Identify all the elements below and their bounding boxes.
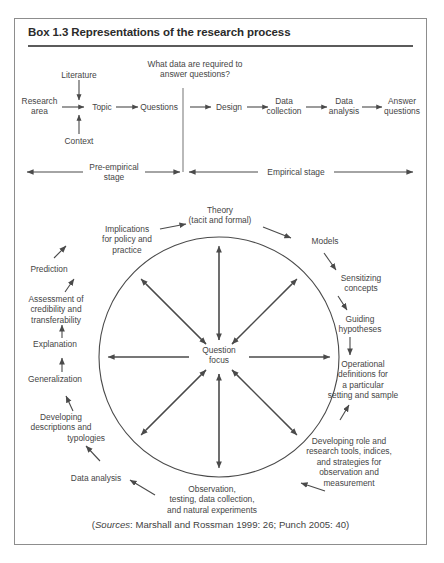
label-generalization: Generalization	[17, 374, 93, 384]
label-assessment: Assessment of credibility and transferab…	[17, 294, 95, 325]
node-data-analysis: Data analysis	[321, 96, 367, 117]
node-research-area: Research area	[16, 96, 63, 117]
label-models: Models	[298, 236, 352, 246]
label-sensitizing: Sensitizing concepts	[327, 273, 395, 294]
node-data-collection: Data collection	[258, 96, 310, 117]
label-data-analysis-circle: Data analysis	[58, 473, 134, 483]
sources-line: (Sources: Marshall and Rossman 1999: 26;…	[14, 519, 427, 530]
node-design: Design	[208, 102, 250, 112]
label-developing-descriptions: Developing descriptions and typologies	[17, 412, 105, 443]
node-literature: Literature	[49, 70, 109, 80]
sources-text: : Marshall and Rossman 1999: 26; Punch 2…	[130, 519, 349, 530]
label-operational-definitions: Operational definitions for a particular…	[315, 359, 411, 401]
label-implications: Implications for policy and practice	[91, 224, 163, 255]
label-explanation: Explanation	[21, 339, 89, 349]
node-questions: Questions	[134, 102, 184, 112]
label-guiding-hypotheses: Guiding hypotheses	[324, 314, 396, 335]
node-topic: Topic	[86, 102, 118, 112]
question-prompt: What data are required to answer questio…	[105, 59, 285, 80]
label-question-focus: Question focus	[189, 345, 249, 366]
question-prompt-line1: What data are required to	[105, 59, 285, 69]
label-theory: Theory (tacit and formal)	[172, 205, 268, 226]
stage-pre-empirical: Pre-empirical stage	[83, 162, 145, 183]
node-context: Context	[49, 136, 109, 146]
node-answer-questions: Answer questions	[378, 96, 426, 117]
label-observation: Observation, testing, data collection, a…	[140, 484, 284, 515]
sources-label: Sources	[95, 519, 130, 530]
label-developing-role: Developing role and research tools, indi…	[288, 436, 410, 488]
stage-empirical: Empirical stage	[258, 167, 334, 177]
label-prediction: Prediction	[19, 264, 79, 274]
question-prompt-line2: answer questions?	[105, 69, 285, 79]
